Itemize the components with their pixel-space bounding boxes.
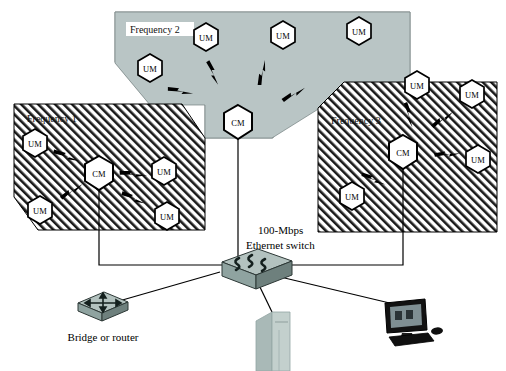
device-bridge-router[interactable]: Bridge or router <box>68 292 139 343</box>
node-label: CM <box>231 118 245 128</box>
node-label: UM <box>465 90 479 100</box>
switch-caption-line-1: 100-Mbps <box>258 224 303 236</box>
node-label: CM <box>92 169 106 179</box>
zone-frequency-2-label: Frequency 2 <box>130 24 180 35</box>
node-label: UM <box>157 167 171 177</box>
pc-left-panel <box>256 312 272 371</box>
node-label: UM <box>352 27 366 37</box>
node-f2-um4[interactable]: UM <box>347 17 371 45</box>
zone-frequency-3-label: Frequency 3 <box>331 115 381 126</box>
switch-caption-line-2: Ethernet switch <box>246 239 315 251</box>
link-switch-to-bridge-router <box>112 272 220 303</box>
node-f3-um2[interactable]: UM <box>460 80 484 108</box>
node-f2-um3[interactable]: UM <box>271 21 295 49</box>
device-ethernet-switch[interactable]: 100-Mbps Ethernet switch <box>222 224 315 289</box>
zone-frequency-1-label: Frequency 1 <box>27 113 77 124</box>
node-label: UM <box>160 212 174 222</box>
bridge-router-caption: Bridge or router <box>68 331 139 343</box>
node-f1-um2[interactable]: UM <box>28 196 52 224</box>
node-label: CM <box>396 148 410 158</box>
network-diagram: Frequency 2 Frequency 1 Frequency 3 <box>0 0 506 371</box>
keyboard <box>389 333 434 346</box>
node-f1-um1[interactable]: UM <box>23 129 47 157</box>
link-switch-to-monitor <box>272 275 398 305</box>
node-f2-um2[interactable]: UM <box>194 23 218 51</box>
node-f3-um1[interactable]: UM <box>405 71 429 99</box>
node-label: UM <box>33 206 47 216</box>
pc-front-panel <box>272 312 290 371</box>
node-label: UM <box>199 33 213 43</box>
node-f1-um3[interactable]: UM <box>152 157 176 185</box>
node-label: UM <box>276 31 290 41</box>
node-f3-um4[interactable]: UM <box>340 182 364 210</box>
mouse <box>431 327 444 336</box>
node-label: UM <box>28 139 42 149</box>
node-label: UM <box>410 81 424 91</box>
device-desktop-pc[interactable] <box>256 312 290 371</box>
node-f3-um3[interactable]: UM <box>466 145 490 173</box>
node-label: UM <box>143 64 157 74</box>
device-workstation-monitor[interactable] <box>385 299 443 346</box>
node-f2-um1[interactable]: UM <box>138 54 162 82</box>
node-label: UM <box>345 192 359 202</box>
node-label: UM <box>471 155 485 165</box>
diagram-canvas: Frequency 2 Frequency 1 Frequency 3 <box>0 0 506 371</box>
node-f1-um4[interactable]: UM <box>155 202 179 230</box>
